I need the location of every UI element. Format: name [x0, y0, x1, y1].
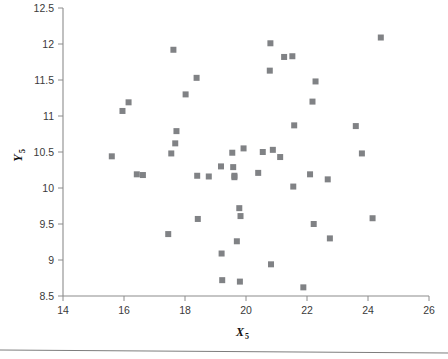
- data-point-marker: [241, 145, 247, 151]
- data-point-marker: [309, 99, 315, 105]
- y-axis-title-subscript: 5: [18, 149, 27, 153]
- data-point-marker: [370, 215, 376, 221]
- data-point-marker: [267, 68, 273, 74]
- scatter-plot-figure: 8.599.51010.51111.51212.5 14161820222426…: [0, 0, 448, 359]
- y-axis-ticks: 8.599.51010.51111.51212.5: [34, 2, 63, 302]
- page-footer-rule: [0, 350, 448, 353]
- data-point-marker: [281, 54, 287, 60]
- x-tick-label: 24: [362, 304, 374, 316]
- data-point-marker: [234, 238, 240, 244]
- data-point-marker: [255, 170, 261, 176]
- data-point-marker: [231, 174, 237, 180]
- data-point-marker: [268, 261, 274, 267]
- data-point-marker: [291, 122, 297, 128]
- y-tick-label: 9: [48, 254, 54, 266]
- data-point-marker: [173, 128, 179, 134]
- data-point-marker: [236, 205, 242, 211]
- data-point-marker: [289, 53, 295, 59]
- data-point-marker: [170, 47, 176, 53]
- y-axis-title: Y 5: [11, 149, 27, 162]
- data-point-marker: [238, 213, 244, 219]
- x-axis-title: X 5: [235, 325, 249, 341]
- data-point-marker: [194, 75, 200, 81]
- y-tick-label: 11: [43, 110, 54, 122]
- x-axis-title-subscript: 5: [245, 332, 249, 341]
- x-axis-ticks: 14161820222426: [57, 296, 435, 316]
- data-point-marker: [119, 108, 125, 114]
- y-tick-label: 10.5: [34, 146, 55, 158]
- data-point-marker: [260, 149, 266, 155]
- x-tick-label: 22: [301, 304, 313, 316]
- data-point-marker: [325, 176, 331, 182]
- x-tick-label: 16: [118, 304, 130, 316]
- y-tick-label: 8.5: [39, 290, 54, 302]
- data-point-marker: [168, 150, 174, 156]
- data-point-marker: [219, 277, 225, 283]
- data-point-marker: [165, 231, 171, 237]
- data-point-marker: [230, 164, 236, 170]
- data-point-marker: [378, 35, 384, 41]
- data-point-marker: [270, 147, 276, 153]
- x-tick-label: 20: [240, 304, 252, 316]
- y-tick-label: 12: [42, 38, 54, 50]
- data-point-marker: [267, 40, 273, 46]
- data-point-marker: [300, 284, 306, 290]
- data-point-marker: [307, 171, 313, 177]
- data-point-marker: [327, 235, 333, 241]
- x-tick-label: 26: [423, 304, 435, 316]
- y-axis-title-text: Y: [11, 153, 25, 162]
- x-tick-label: 14: [57, 304, 69, 316]
- data-point-marker: [126, 99, 132, 105]
- data-point-marker: [194, 173, 200, 179]
- data-point-marker: [237, 279, 243, 285]
- data-point-marker: [134, 171, 140, 177]
- data-point-marker: [218, 163, 224, 169]
- x-tick-label: 18: [179, 304, 191, 316]
- data-point-marker: [195, 216, 201, 222]
- data-point-marker: [311, 221, 317, 227]
- y-tick-label: 9.5: [39, 218, 54, 230]
- data-point-marker: [353, 123, 359, 129]
- data-point-marker: [109, 153, 115, 159]
- y-tick-label: 12.5: [34, 2, 55, 14]
- data-point-marker: [219, 251, 225, 257]
- x-axis-title-text: X: [235, 325, 245, 339]
- data-point-marker: [229, 150, 235, 156]
- data-point-marker: [359, 150, 365, 156]
- scatter-plot-svg: 8.599.51010.51111.51212.5 14161820222426…: [0, 0, 448, 359]
- data-point-marker: [290, 184, 296, 190]
- data-point-marker: [183, 91, 189, 97]
- data-point-marker: [313, 78, 319, 84]
- data-point-marker: [140, 172, 146, 178]
- y-tick-label: 11.5: [34, 74, 54, 86]
- data-point-group: [109, 35, 384, 291]
- data-point-marker: [206, 173, 212, 179]
- axes-group: [63, 8, 429, 296]
- data-point-marker: [172, 140, 178, 146]
- y-tick-label: 10: [42, 182, 54, 194]
- data-point-marker: [277, 154, 283, 160]
